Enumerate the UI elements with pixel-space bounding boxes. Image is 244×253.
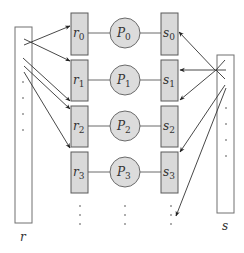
right-buffer-s — [217, 55, 234, 213]
right-buffer-label: s — [222, 219, 228, 233]
row-0: r0 P0 s0 — [71, 13, 178, 55]
row-2: r2 P2 s2 — [71, 106, 178, 147]
left-buffer-r — [15, 27, 32, 223]
arrow-s-to-s2 — [180, 70, 216, 100]
scatter-gather-diagram: r s r0 P0 s0 r1 P1 s1 r2 P2 — [0, 0, 244, 253]
arrow-s-to-s0 — [179, 32, 215, 70]
row-1: r1 P1 s1 — [71, 60, 178, 101]
continuation-dots — [79, 205, 172, 225]
row-3: r3 P3 s3 — [71, 152, 178, 193]
left-buffer-label: r — [20, 230, 27, 244]
